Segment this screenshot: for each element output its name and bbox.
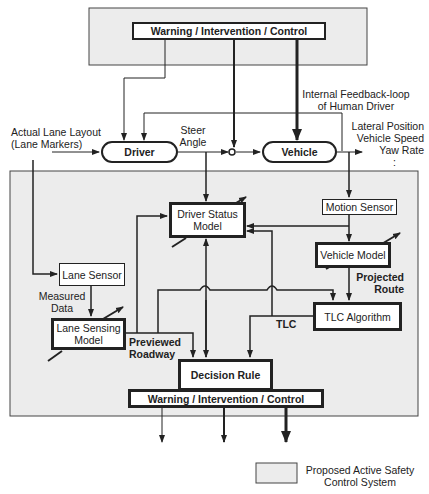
output-ellipsis: :	[340, 156, 424, 168]
bottom-warning-box: Warning / Intervention / Control	[128, 389, 324, 408]
feedback-line2: of Human Driver	[299, 100, 413, 112]
driver-block: Driver	[101, 141, 178, 163]
summing-junction	[229, 149, 235, 155]
legend-label: Proposed Active Safety Control System	[298, 464, 422, 488]
legend-swatch	[256, 463, 297, 483]
tlc-label: TLC	[276, 318, 296, 330]
lane-layout-line2: (Lane Markers)	[11, 138, 101, 150]
top-warning-box: Warning / Intervention / Control	[132, 22, 326, 40]
measured-data-label: Measured Data	[36, 290, 88, 314]
motion-sensor: Motion Sensor	[322, 199, 397, 215]
decision-rule: Decision Rule	[178, 359, 273, 391]
projected-line1: Projected	[340, 271, 404, 283]
lane-layout-label: Actual Lane Layout (Lane Markers)	[11, 126, 101, 150]
driver-status-model: Driver Status Model	[169, 202, 246, 238]
steer-line2: Angle	[178, 136, 208, 148]
output-vehicle-speed: Vehicle Speed	[340, 132, 424, 144]
driver-status-line2: Model	[193, 220, 222, 232]
steer-line1: Steer	[178, 124, 208, 136]
measured-line2: Data	[36, 302, 88, 314]
lane-sensing-line1: Lane Sensing	[56, 322, 120, 334]
feedback-line1: Internal Feedback-loop	[299, 88, 413, 100]
legend-line2: Control System	[298, 476, 422, 488]
vehicle-block: Vehicle	[262, 141, 337, 163]
lane-sensing-model: Lane Sensing Model	[51, 318, 126, 350]
output-yaw-rate: Yaw Rate	[340, 144, 424, 156]
previewed-line2: Roadway	[129, 348, 181, 360]
previewed-line1: Previewed	[129, 336, 181, 348]
output-lateral-position: Lateral Position	[340, 120, 424, 132]
lane-layout-line1: Actual Lane Layout	[11, 126, 101, 138]
steer-angle-label: Steer Angle	[178, 124, 208, 148]
vehicle-outputs-label: Lateral Position Vehicle Speed Yaw Rate …	[340, 120, 424, 168]
previewed-roadway-label: Previewed Roadway	[129, 336, 181, 360]
feedback-loop-label: Internal Feedback-loop of Human Driver	[299, 88, 413, 112]
lane-sensor: Lane Sensor	[59, 263, 125, 286]
legend-line1: Proposed Active Safety	[298, 464, 422, 476]
projected-line2: Route	[340, 283, 404, 295]
measured-line1: Measured	[36, 290, 88, 302]
tlc-algorithm: TLC Algorithm	[313, 302, 402, 331]
driver-status-line1: Driver Status	[177, 208, 238, 220]
vehicle-model: Vehicle Model	[315, 242, 391, 268]
lane-sensing-line2: Model	[74, 334, 103, 346]
projected-route-label: Projected Route	[340, 271, 404, 295]
